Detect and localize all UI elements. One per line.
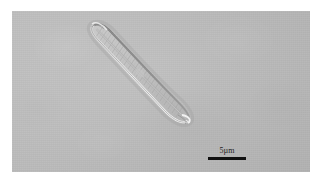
scale-bar-label: 5µm (208, 146, 246, 155)
diatom-raphe (97, 29, 187, 119)
micrograph-panel: 5µm (12, 11, 310, 172)
diatom-specimen (12, 11, 310, 172)
diatom-specimen-svg (12, 11, 310, 172)
scale-bar-line (208, 157, 246, 160)
scale-bar: 5µm (208, 146, 246, 160)
figure-root: 5µm (0, 0, 321, 183)
